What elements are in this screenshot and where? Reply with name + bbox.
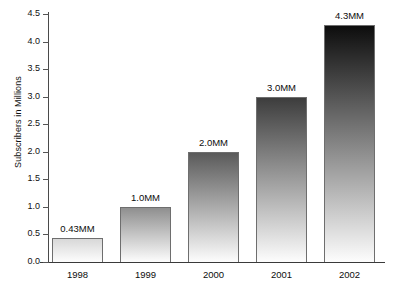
y-axis-tick	[43, 207, 49, 208]
y-axis-tick	[43, 14, 49, 15]
bar-value-label: 4.3MM	[315, 11, 384, 21]
bar-value-label: 1.0MM	[111, 193, 180, 203]
bar-value-label: 2.0MM	[179, 138, 248, 148]
x-axis-label-2002: 2002	[315, 270, 384, 280]
y-axis-tick	[43, 69, 49, 70]
bar-chart: Subscribers in Millions 0.00.51.01.52.02…	[0, 0, 393, 292]
y-axis-tick-label: 4.5	[0, 9, 40, 18]
y-axis-tick-label: 4.0	[0, 37, 40, 46]
bar-1999[interactable]	[120, 207, 171, 262]
x-axis-label-1998: 1998	[43, 270, 112, 280]
bar-2002[interactable]	[324, 25, 375, 262]
bar-1998[interactable]	[52, 238, 103, 262]
y-axis-tick-label: 2.0	[0, 147, 40, 156]
y-axis-tick-label: 0.0	[0, 257, 40, 266]
y-axis-tick	[43, 42, 49, 43]
x-axis-label-1999: 1999	[111, 270, 180, 280]
y-axis-tick-label: 2.5	[0, 119, 40, 128]
x-axis-label-2000: 2000	[179, 270, 248, 280]
y-axis-tick	[43, 234, 49, 235]
y-axis-tick	[43, 152, 49, 153]
bar-value-label: 3.0MM	[247, 83, 316, 93]
y-axis-tick	[43, 262, 49, 263]
y-axis-tick-label: 3.5	[0, 64, 40, 73]
bar-value-label: 0.43MM	[43, 224, 112, 234]
x-axis-line	[40, 262, 385, 263]
y-axis-tick	[43, 179, 49, 180]
y-axis-tick	[43, 97, 49, 98]
y-axis-tick-label: 1.5	[0, 174, 40, 183]
x-axis-label-2001: 2001	[247, 270, 316, 280]
y-axis-tick	[43, 124, 49, 125]
y-axis-tick-label: 3.0	[0, 92, 40, 101]
y-axis-tick-label: 0.5	[0, 229, 40, 238]
bar-2000[interactable]	[188, 152, 239, 262]
bar-2001[interactable]	[256, 97, 307, 262]
y-axis-tick-label: 1.0	[0, 202, 40, 211]
